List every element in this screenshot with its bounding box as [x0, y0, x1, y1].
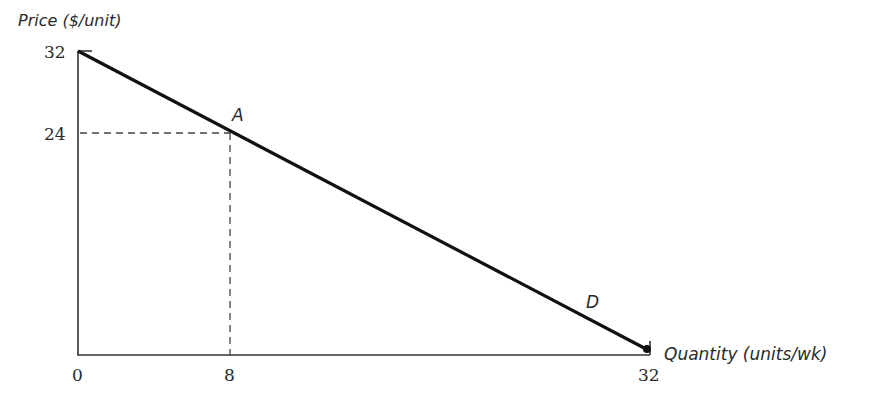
point-a-label: A	[231, 105, 244, 125]
x-tick-label-0: 0	[72, 365, 83, 385]
x-tick-label-8: 8	[224, 365, 235, 385]
curve-d-label: D	[586, 292, 599, 312]
y-tick-label-32: 32	[44, 42, 66, 62]
demand-chart: Price ($/unit) Quantity (units/wk) 32 24…	[0, 0, 872, 406]
demand-curve	[78, 51, 648, 350]
x-axis-title: Quantity (units/wk)	[664, 344, 827, 364]
y-tick-label-24: 24	[44, 124, 66, 144]
x-tick-label-32: 32	[638, 365, 660, 385]
demand-endpoint	[643, 345, 651, 353]
y-axis-title: Price ($/unit)	[18, 11, 121, 30]
